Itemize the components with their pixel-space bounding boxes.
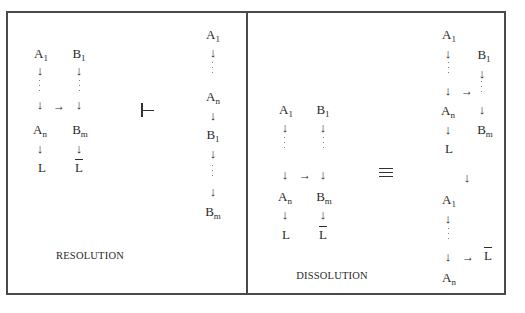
node-l-bar: L — [484, 249, 492, 262]
node-b1: B1 — [72, 47, 85, 60]
dissolution-title: DISSOLUTION — [296, 270, 368, 281]
node-an: An — [441, 104, 455, 117]
node-l-bar: L — [75, 161, 83, 174]
down-arrow-icon: ↓ — [445, 212, 452, 225]
node-l: L — [445, 142, 453, 155]
down-arrow-icon: ↓ — [479, 67, 486, 80]
node-b1: B1 — [206, 128, 219, 141]
panel-divider — [246, 11, 248, 295]
node-l: L — [38, 161, 46, 174]
right-arrow-icon: → — [53, 100, 65, 112]
down-arrow-icon: ↓ — [445, 123, 452, 136]
down-arrow-icon: ↓ — [37, 142, 44, 155]
node-l: L — [282, 228, 290, 241]
down-arrow-icon: ↓ — [210, 185, 217, 198]
right-arrow-icon: → — [462, 251, 474, 263]
node-b1: B1 — [477, 48, 490, 61]
down-arrow-icon: ↓ — [320, 208, 327, 221]
down-arrow-icon: ↓ — [37, 64, 44, 77]
node-a1: A1 — [442, 28, 456, 41]
ellipsis-dots — [79, 80, 81, 95]
down-arrow-icon: ↓ — [320, 121, 327, 134]
node-b1: B1 — [316, 103, 329, 116]
ellipsis-dots — [448, 62, 450, 77]
down-arrow-icon: ↓ — [445, 47, 452, 60]
down-arrow-icon: ↓ — [479, 103, 486, 116]
down-arrow-icon: ↓ — [282, 168, 289, 181]
node-l-bar: L — [319, 228, 327, 241]
node-an: An — [33, 123, 47, 136]
ellipsis-dots — [323, 137, 325, 152]
down-arrow-icon: ↓ — [282, 208, 289, 221]
down-arrow-icon: ↓ — [37, 98, 44, 111]
node-a1: A1 — [206, 28, 220, 41]
ellipsis-dots — [39, 80, 41, 95]
node-an: An — [206, 90, 220, 103]
node-an: An — [442, 271, 456, 284]
node-bm: Bm — [316, 190, 332, 203]
down-arrow-icon: ↓ — [445, 84, 452, 97]
down-arrow-icon: ↓ — [76, 64, 83, 77]
down-arrow-icon: ↓ — [210, 109, 217, 122]
node-a1: A1 — [34, 47, 48, 60]
ellipsis-dots — [448, 228, 450, 243]
equivalence-icon — [379, 168, 393, 178]
down-arrow-icon: ↓ — [210, 147, 217, 160]
down-arrow-icon: ↓ — [282, 121, 289, 134]
ellipsis-dots — [284, 137, 286, 152]
down-arrow-icon: ↓ — [76, 142, 83, 155]
right-arrow-icon: → — [461, 85, 473, 97]
right-arrow-icon: → — [299, 169, 311, 181]
down-arrow-icon: ↓ — [445, 250, 452, 263]
node-bm: Bm — [72, 123, 88, 136]
down-arrow-icon: ↓ — [464, 171, 471, 184]
turnstile-icon — [141, 103, 157, 117]
ellipsis-dots — [212, 165, 214, 180]
node-a1: A1 — [442, 193, 456, 206]
node-a1: A1 — [279, 103, 293, 116]
down-arrow-icon: ↓ — [320, 168, 327, 181]
ellipsis-dots — [481, 81, 483, 96]
node-bm: Bm — [477, 123, 493, 136]
node-bm: Bm — [205, 205, 221, 218]
down-arrow-icon: ↓ — [76, 98, 83, 111]
ellipsis-dots — [212, 62, 214, 77]
node-an: An — [278, 190, 292, 203]
down-arrow-icon: ↓ — [210, 46, 217, 59]
resolution-title: RESOLUTION — [56, 250, 124, 261]
